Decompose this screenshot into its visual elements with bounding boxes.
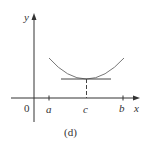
tick-label-c: c (83, 103, 88, 115)
diagram: y x 0 a c b (d) (0, 0, 146, 149)
tick-label-b: b (119, 102, 125, 114)
curve (49, 58, 124, 79)
figure-caption: (d) (64, 126, 77, 139)
y-axis-arrow-icon (32, 13, 37, 20)
x-axis-label: x (133, 102, 139, 114)
origin-label: 0 (24, 102, 30, 114)
y-axis-label: y (23, 11, 29, 23)
tick-label-a: a (46, 103, 52, 115)
x-axis-arrow-icon (133, 96, 140, 101)
